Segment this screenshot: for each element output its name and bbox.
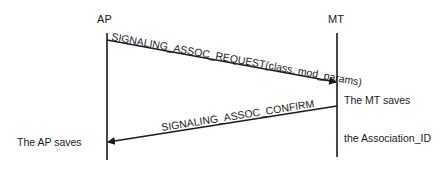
message-label-confirm: SIGNALING_ASSOC_CONFIRM: [160, 97, 315, 133]
message-label-request: SIGNALING_ASSOC_REQUEST(class, mod_param…: [111, 30, 363, 88]
note-ap: The AP saves the Association_ID in the c…: [17, 111, 112, 169]
note-mt: The MT saves the Association_ID in the c…: [344, 69, 439, 169]
note-mt-line: The MT saves: [344, 94, 439, 107]
note-mt-line: the Association_ID: [344, 132, 439, 145]
note-ap-line: The AP saves: [17, 136, 112, 149]
